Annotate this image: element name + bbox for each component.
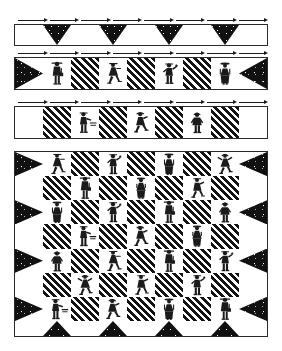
corner-triangle[interactable] xyxy=(15,58,43,89)
striped-square[interactable] xyxy=(127,58,155,89)
striped-square[interactable] xyxy=(155,176,183,200)
flying-geese-up[interactable] xyxy=(155,321,183,336)
figure-block[interactable] xyxy=(43,200,71,224)
striped-square[interactable] xyxy=(183,249,211,273)
striped-square[interactable] xyxy=(127,297,155,321)
figure-block[interactable] xyxy=(155,297,183,321)
figure-strip-upper[interactable] xyxy=(14,57,268,90)
figure-block[interactable] xyxy=(127,107,155,138)
figure-block[interactable] xyxy=(99,200,127,224)
striped-square[interactable] xyxy=(43,107,71,138)
plain-square[interactable] xyxy=(239,107,267,138)
figure-block[interactable] xyxy=(43,58,71,89)
figure-block[interactable] xyxy=(211,249,239,273)
corner-triangle[interactable] xyxy=(239,58,267,89)
figure-block[interactable] xyxy=(71,273,99,297)
striped-square[interactable] xyxy=(71,152,99,176)
flying-geese-down[interactable] xyxy=(99,25,127,45)
figure-block[interactable] xyxy=(211,58,239,89)
striped-square[interactable] xyxy=(127,200,155,224)
striped-square[interactable] xyxy=(99,176,127,200)
figure-block[interactable] xyxy=(43,152,71,176)
striped-square[interactable] xyxy=(155,273,183,297)
figure-strip-lower[interactable] xyxy=(14,106,268,139)
striped-square[interactable] xyxy=(211,107,239,138)
flying-geese-up[interactable] xyxy=(43,321,71,336)
figure-block[interactable] xyxy=(99,297,127,321)
edge-triangle[interactable] xyxy=(15,200,43,224)
striped-square[interactable] xyxy=(183,297,211,321)
plain-square[interactable] xyxy=(239,25,267,45)
plain-square[interactable] xyxy=(183,25,211,45)
figure-block[interactable] xyxy=(183,176,211,200)
figure-block[interactable] xyxy=(127,176,155,200)
striped-square[interactable] xyxy=(183,152,211,176)
plain-square[interactable] xyxy=(15,224,43,248)
edge-triangle[interactable] xyxy=(239,200,267,224)
flying-geese-up[interactable] xyxy=(211,321,239,336)
figure-block[interactable] xyxy=(99,152,127,176)
flying-geese-up[interactable] xyxy=(99,321,127,336)
striped-square[interactable] xyxy=(71,297,99,321)
flying-geese-down[interactable] xyxy=(155,25,183,45)
figure-block[interactable] xyxy=(183,107,211,138)
figure-block[interactable] xyxy=(211,152,239,176)
striped-square[interactable] xyxy=(99,107,127,138)
plain-square[interactable] xyxy=(127,321,155,336)
edge-triangle[interactable] xyxy=(15,297,43,321)
figure-block[interactable] xyxy=(71,224,99,248)
figure-block[interactable] xyxy=(155,200,183,224)
plain-square[interactable] xyxy=(71,321,99,336)
figure-block[interactable] xyxy=(211,200,239,224)
edge-triangle[interactable] xyxy=(239,297,267,321)
plain-square[interactable] xyxy=(127,25,155,45)
edge-triangle[interactable] xyxy=(239,152,267,176)
figure-block[interactable] xyxy=(43,249,71,273)
striped-square[interactable] xyxy=(127,249,155,273)
plain-square[interactable] xyxy=(239,176,267,200)
edge-triangle[interactable] xyxy=(15,152,43,176)
figure-block[interactable] xyxy=(183,224,211,248)
striped-square[interactable] xyxy=(211,224,239,248)
figure-block[interactable] xyxy=(155,58,183,89)
figure-block[interactable] xyxy=(99,249,127,273)
striped-square[interactable] xyxy=(71,249,99,273)
striped-square[interactable] xyxy=(99,224,127,248)
plain-square[interactable] xyxy=(71,25,99,45)
striped-square[interactable] xyxy=(43,176,71,200)
plain-square[interactable] xyxy=(15,107,43,138)
top-border-strip[interactable] xyxy=(14,24,268,46)
plain-square[interactable] xyxy=(15,25,43,45)
striped-square[interactable] xyxy=(155,224,183,248)
figure-block[interactable] xyxy=(155,152,183,176)
striped-square[interactable] xyxy=(43,273,71,297)
figure-block[interactable] xyxy=(99,58,127,89)
plain-square[interactable] xyxy=(239,273,267,297)
striped-square[interactable] xyxy=(155,107,183,138)
figure-block[interactable] xyxy=(183,273,211,297)
figure-block[interactable] xyxy=(43,297,71,321)
striped-square[interactable] xyxy=(99,273,127,297)
striped-square[interactable] xyxy=(211,273,239,297)
plain-square[interactable] xyxy=(15,321,43,336)
plain-square[interactable] xyxy=(15,273,43,297)
striped-square[interactable] xyxy=(71,200,99,224)
flying-geese-down[interactable] xyxy=(43,25,71,45)
striped-square[interactable] xyxy=(183,200,211,224)
striped-square[interactable] xyxy=(127,152,155,176)
figure-block[interactable] xyxy=(155,249,183,273)
striped-square[interactable] xyxy=(183,58,211,89)
main-quilt-body[interactable] xyxy=(14,151,268,337)
striped-square[interactable] xyxy=(211,176,239,200)
flying-geese-down[interactable] xyxy=(211,25,239,45)
figure-block[interactable] xyxy=(71,107,99,138)
striped-square[interactable] xyxy=(43,224,71,248)
plain-square[interactable] xyxy=(183,321,211,336)
edge-triangle[interactable] xyxy=(15,249,43,273)
figure-block[interactable] xyxy=(127,273,155,297)
figure-block[interactable] xyxy=(127,224,155,248)
plain-square[interactable] xyxy=(239,224,267,248)
plain-square[interactable] xyxy=(239,321,267,336)
figure-block[interactable] xyxy=(211,297,239,321)
plain-square[interactable] xyxy=(15,176,43,200)
